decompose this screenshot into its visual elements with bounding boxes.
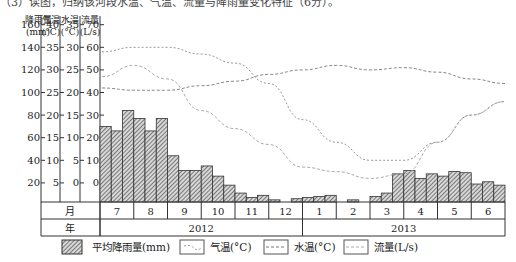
svg-text:160: 160 [21, 19, 40, 30]
svg-text:12: 12 [279, 206, 292, 217]
svg-text:6: 6 [485, 206, 491, 217]
svg-text:2013: 2013 [391, 223, 416, 234]
chart: 降雨量 (mm) 气温 (°C) 水温 (°C) 流量 (L/s) 204060… [0, 0, 516, 262]
svg-text:40: 40 [27, 155, 40, 166]
svg-text:0: 0 [73, 177, 79, 188]
category-table: 月 年 789101112123456 20122013 [41, 202, 505, 236]
svg-text:60: 60 [27, 132, 40, 143]
svg-text:15: 15 [66, 110, 79, 121]
svg-text:10: 10 [66, 132, 79, 143]
svg-text:4: 4 [417, 206, 423, 217]
legend-label: 平均降雨量(mm) [92, 241, 170, 253]
svg-text:2: 2 [350, 206, 356, 217]
svg-text:5: 5 [53, 177, 59, 188]
svg-text:1: 1 [316, 206, 322, 217]
svg-text:20: 20 [86, 132, 99, 143]
svg-text:20: 20 [66, 87, 79, 98]
svg-text:40: 40 [86, 87, 99, 98]
svg-text:35: 35 [66, 19, 79, 30]
month-row-label: 月 [65, 206, 75, 217]
svg-text:120: 120 [21, 64, 40, 75]
svg-text:2012: 2012 [189, 223, 214, 234]
svg-text:20: 20 [46, 110, 59, 121]
svg-text:10: 10 [86, 155, 99, 166]
hatched-bar-icon [62, 240, 82, 254]
legend-item-rainfall: 平均降雨量(mm) [62, 240, 170, 254]
svg-text:5: 5 [451, 206, 457, 217]
svg-text:25: 25 [46, 87, 59, 98]
svg-text:35: 35 [46, 42, 59, 53]
svg-text:40: 40 [46, 19, 59, 30]
svg-text:140: 140 [21, 42, 40, 53]
svg-text:70: 70 [86, 19, 99, 30]
axis-ticks: 2040608010012014016051015202530354005101… [21, 19, 104, 188]
legend-label: 流量(L/s) [374, 241, 418, 253]
svg-text:11: 11 [246, 206, 259, 217]
svg-text:15: 15 [46, 132, 59, 143]
year-row-label: 年 [65, 222, 75, 234]
rainfall-bars [100, 111, 505, 202]
legend-label: 水温(°C) [294, 241, 335, 253]
svg-text:8: 8 [147, 206, 153, 217]
svg-text:60: 60 [86, 42, 99, 53]
svg-text:10: 10 [46, 155, 59, 166]
legend-item-air-temp: 气温(°C) [180, 240, 251, 254]
svg-text:9: 9 [181, 206, 187, 217]
svg-text:0: 0 [93, 177, 99, 188]
svg-text:5: 5 [73, 155, 79, 166]
legend-item-water-temp: 水温(°C) [264, 240, 335, 254]
svg-text:3: 3 [384, 206, 390, 217]
svg-text:7: 7 [114, 206, 120, 217]
legend-label: 气温(°C) [210, 241, 251, 253]
svg-text:30: 30 [66, 42, 79, 53]
svg-text:100: 100 [21, 87, 40, 98]
svg-text:50: 50 [86, 64, 99, 75]
svg-text:25: 25 [66, 64, 79, 75]
legend: 平均降雨量(mm) 气温(°C) 水温(°C) 流量(L/s) [62, 240, 418, 254]
svg-text:20: 20 [27, 177, 40, 188]
legend-item-flow: 流量(L/s) [344, 240, 418, 254]
svg-text:10: 10 [212, 206, 225, 217]
svg-text:30: 30 [46, 64, 59, 75]
svg-text:80: 80 [27, 110, 40, 121]
svg-text:30: 30 [86, 110, 99, 121]
